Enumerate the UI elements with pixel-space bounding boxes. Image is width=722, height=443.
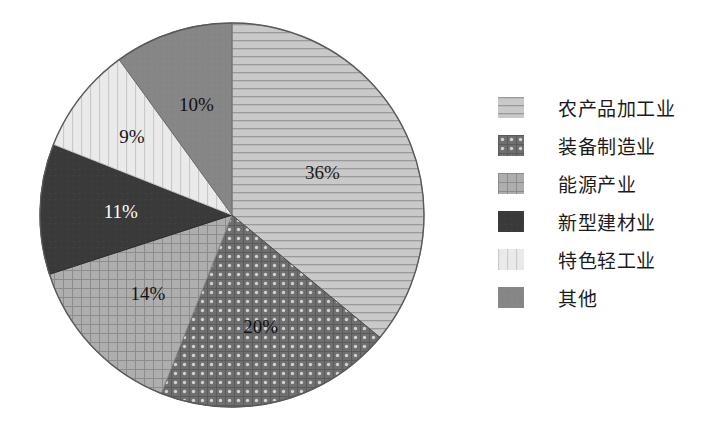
legend-item[interactable]: 装备制造业 (498, 126, 718, 164)
legend-item[interactable]: 新型建材业 (498, 202, 718, 240)
legend-swatch-icon (498, 249, 524, 270)
legend-swatch-icon (498, 97, 524, 118)
legend-item-label: 其他 (558, 284, 597, 311)
legend-item-label: 装备制造业 (558, 132, 656, 159)
legend-item[interactable]: 特色轻工业 (498, 240, 718, 278)
pie-slices-group (40, 23, 424, 407)
legend-item-label: 能源产业 (558, 170, 636, 197)
pie-slice-label: 20% (243, 316, 278, 337)
legend-swatch-icon (498, 211, 524, 232)
legend-swatch-icon (498, 173, 524, 194)
legend-item-label: 特色轻工业 (558, 246, 656, 273)
pie-slice-label: 14% (131, 283, 166, 304)
legend-item-label: 新型建材业 (558, 208, 656, 235)
chart-legend: 农产品加工业 (498, 88, 718, 316)
legend-item[interactable]: 其他 (498, 278, 718, 316)
pie-slice-label: 10% (179, 94, 214, 115)
pie-chart-figure: 36%20%14%11%9%10% (0, 0, 722, 443)
legend-swatch-icon (498, 135, 524, 156)
pie-slice-label: 11% (104, 201, 138, 222)
legend-item-label: 农产品加工业 (558, 94, 675, 121)
pie-slice-label: 9% (119, 126, 145, 147)
legend-swatch-icon (498, 287, 524, 308)
pie-slice-label: 36% (305, 162, 340, 183)
legend-item[interactable]: 能源产业 (498, 164, 718, 202)
legend-item[interactable]: 农产品加工业 (498, 88, 718, 126)
